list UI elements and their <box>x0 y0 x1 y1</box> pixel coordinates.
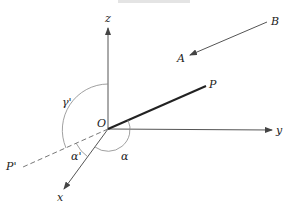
y-axis <box>108 129 272 130</box>
y-axis-label: y <box>275 124 283 137</box>
vector-op <box>108 86 206 129</box>
origin-label: O <box>97 117 106 130</box>
point-b-label: B <box>270 15 279 28</box>
angle-gamma-prime-label: γ' <box>62 96 72 109</box>
point-p-label: P <box>208 78 217 91</box>
vector-ba <box>190 22 267 55</box>
x-axis-label: x <box>57 191 64 204</box>
point-p-prime-label: P' <box>5 160 16 173</box>
z-axis-label: z <box>104 12 111 25</box>
angle-alpha-label: α <box>121 150 129 163</box>
coordinate-diagram: z y x P P' O B A γ' α α' <box>0 0 288 210</box>
angle-alpha-prime-label: α' <box>71 150 81 163</box>
dashed-line-op-prime <box>23 129 108 167</box>
point-a-label: A <box>176 52 185 65</box>
